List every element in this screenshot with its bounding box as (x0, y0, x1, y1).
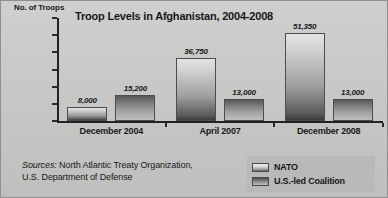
bar-coalition (115, 95, 155, 121)
legend-label-nato: NATO (274, 162, 298, 172)
sources-line1: North Atlantic Treaty Organization, (57, 160, 193, 170)
bar-value-label: 51,350 (278, 22, 332, 31)
x-axis-category-label: December 2004 (51, 126, 171, 136)
y-axis-tick (52, 86, 57, 88)
bar-coalition (224, 99, 264, 121)
bar-value-label: 8,000 (60, 96, 114, 105)
bar-value-label: 13,000 (326, 88, 380, 97)
bar-value-label: 15,200 (108, 84, 162, 93)
x-axis-category-label: April 2007 (160, 126, 280, 136)
y-axis-title: No. of Troops (14, 3, 64, 12)
y-axis-tick (52, 69, 57, 71)
bar-nato (285, 33, 325, 121)
y-axis-tick (52, 120, 57, 122)
bar-value-label: 36,750 (169, 47, 223, 56)
nato-swatch-icon (252, 163, 269, 172)
y-axis-tick (52, 51, 57, 53)
legend-label-coalition: U.S.-led Coalition (274, 176, 345, 186)
y-axis-tick (52, 103, 57, 105)
y-axis-line (57, 18, 59, 123)
legend-item-coalition: U.S.-led Coalition (252, 174, 371, 188)
y-axis-tick (52, 17, 57, 19)
legend-item-nato: NATO (252, 160, 371, 174)
bar-coalition (333, 99, 373, 121)
sources-label: Sources: (22, 160, 57, 170)
plot-area: 010,00020,00030,00040,00050,00060,0008,0… (57, 18, 383, 123)
y-axis-tick (52, 34, 57, 36)
chart-figure: No. of Troops Troop Levels in Afghanista… (0, 0, 388, 198)
sources-note: Sources: North Atlantic Treaty Organizat… (22, 159, 193, 183)
x-axis-category-label: December 2008 (269, 126, 388, 136)
chart-legend: NATO U.S.-led Coalition (247, 156, 375, 192)
sources-line2: U.S. Department of Defense (22, 172, 132, 182)
x-axis-line (57, 121, 383, 123)
bar-value-label: 13,000 (217, 88, 271, 97)
bar-nato (67, 107, 107, 121)
coalition-swatch-icon (252, 177, 269, 186)
bar-nato (176, 58, 216, 121)
